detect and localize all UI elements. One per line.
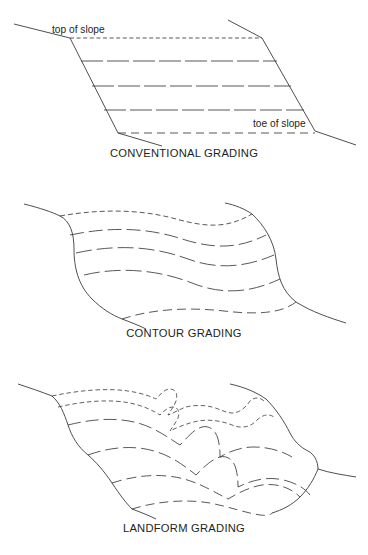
contour-line-2 — [68, 419, 292, 457]
existing-grade-upper-right — [225, 203, 252, 214]
contour-line-2 — [76, 248, 274, 266]
existing-grade-upper-right — [228, 20, 262, 38]
existing-grade-upper-right — [230, 384, 266, 399]
panel-contour-grading: CONTOUR GRADING — [0, 185, 368, 355]
existing-grade-lower-right — [296, 302, 346, 323]
contour-line-top-of-slope — [60, 211, 252, 225]
slope-edge-right — [266, 399, 318, 469]
existing-grade-lower-left — [118, 133, 162, 146]
slope-edge-right-lower — [272, 469, 318, 513]
panel-conventional-grading: top of slope toe of slope CONVENTIONAL G… — [0, 0, 368, 185]
existing-grade-lower-right — [315, 131, 356, 145]
slope-edge-right — [252, 214, 296, 302]
existing-grade-lower-right — [318, 469, 356, 477]
caption-contour-grading: CONTOUR GRADING — [0, 327, 368, 339]
label-toe-of-slope: toe of slope — [253, 118, 306, 129]
slope-edge-left — [52, 396, 132, 509]
contour-line-toe-of-slope — [122, 302, 296, 319]
contour-line-1 — [70, 229, 266, 246]
existing-grade-lower-left — [132, 509, 156, 519]
contour-line-4 — [112, 476, 300, 499]
label-top-of-slope: top of slope — [52, 24, 105, 35]
panel-landform-grading: LANDFORM GRADING — [0, 355, 368, 555]
existing-grade-left — [18, 384, 52, 396]
caption-landform-grading: LANDFORM GRADING — [0, 522, 368, 534]
contour-line-1 — [58, 401, 274, 431]
contour-line-toe-of-slope — [132, 501, 272, 515]
caption-conventional-grading: CONVENTIONAL GRADING — [0, 147, 368, 159]
contour-line-3 — [88, 448, 310, 495]
diagram-sheet: top of slope toe of slope CONVENTIONAL G… — [0, 0, 368, 555]
contour-line-top-of-slope — [52, 389, 264, 415]
contour-line-3 — [84, 270, 280, 291]
existing-grade-left — [24, 204, 60, 216]
slope-edge-left — [70, 38, 118, 133]
